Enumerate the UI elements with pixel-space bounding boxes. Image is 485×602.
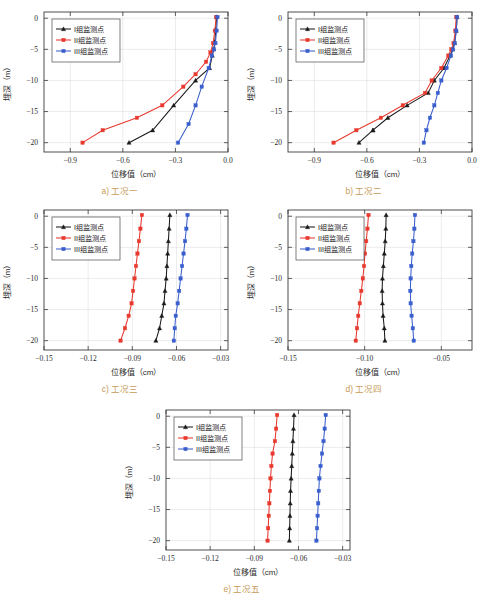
legend-label: III组监测点 — [318, 245, 352, 254]
data-point-marker — [166, 239, 170, 243]
data-point-marker — [135, 116, 138, 119]
x-tick-label: −0.6 — [116, 156, 130, 165]
legend-a: I组监测点II组监测点III组监测点 — [52, 19, 120, 62]
data-point-marker — [172, 339, 175, 342]
data-point-marker — [382, 326, 386, 330]
subplot-caption-a: a) 工况一 — [102, 186, 139, 196]
figure-root: −0.9−0.6−0.30.00−5−10−15−20位移值（cm）埋深（m）I… — [0, 0, 485, 602]
y-tick-label: −10 — [26, 274, 38, 283]
legend-label: III组监测点 — [74, 245, 108, 254]
legend-label: II组监测点 — [318, 36, 350, 45]
data-point-marker — [316, 514, 319, 517]
legend-label: II组监测点 — [74, 234, 106, 243]
data-point-marker — [411, 252, 414, 255]
data-point-marker — [425, 129, 428, 132]
subplot-caption-d: d) 工况四 — [346, 384, 383, 394]
data-point-marker — [381, 264, 385, 268]
data-point-marker — [422, 141, 425, 144]
data-point-marker — [140, 213, 143, 216]
data-point-marker — [383, 239, 387, 243]
data-point-marker — [174, 314, 177, 317]
legend-label: I组监测点 — [196, 423, 226, 432]
legend-swatch-marker — [306, 236, 309, 239]
data-point-marker — [411, 327, 414, 330]
legend-label: I组监测点 — [318, 25, 348, 34]
data-point-marker — [179, 277, 182, 280]
legend-c: I组监测点II组监测点III组监测点 — [52, 217, 120, 260]
data-point-marker — [366, 227, 369, 230]
y-tick-label: −15 — [270, 305, 282, 314]
chart-b: −0.9−0.6−0.30.00−5−10−15−20位移值（cm）埋深（m）I… — [244, 2, 484, 198]
data-point-marker — [273, 439, 276, 442]
chart-e: −0.15−0.12−0.09−0.06−0.030−5−10−15−20位移值… — [122, 400, 362, 596]
series-group-c — [119, 213, 189, 343]
legend-swatch-marker — [184, 447, 187, 450]
data-point-marker — [332, 141, 335, 144]
y-tick-label: 0 — [34, 212, 38, 221]
data-point-marker — [163, 289, 167, 293]
data-point-marker — [177, 289, 180, 292]
data-point-marker — [433, 104, 436, 107]
x-tick-label: −0.9 — [63, 156, 77, 165]
y-tick-label: −5 — [274, 45, 282, 54]
data-point-marker — [440, 66, 443, 69]
data-point-marker — [409, 289, 412, 292]
series-group-e — [266, 413, 328, 543]
x-tick-label: −0.06 — [168, 354, 186, 363]
subplot-d: −0.15−0.10−0.050−5−10−15−20位移值（cm）埋深（m）I… — [244, 200, 484, 396]
data-point-marker — [380, 289, 384, 293]
x-tick-label: −0.09 — [124, 354, 142, 363]
data-point-marker — [204, 60, 207, 63]
data-point-marker — [317, 502, 320, 505]
data-point-marker — [182, 252, 185, 255]
data-point-marker — [161, 104, 164, 107]
data-point-marker — [386, 116, 390, 120]
data-point-marker — [194, 73, 197, 76]
x-tick-label: −0.6 — [360, 156, 374, 165]
data-point-marker — [380, 301, 384, 305]
data-point-marker — [365, 239, 368, 242]
y-tick-label: 0 — [156, 412, 160, 421]
data-point-marker — [176, 302, 179, 305]
data-point-marker — [288, 514, 292, 518]
legend-swatch-marker — [62, 247, 65, 250]
data-point-marker — [360, 289, 363, 292]
data-point-marker — [412, 339, 415, 342]
data-point-marker — [413, 227, 416, 230]
y-tick-label: −15 — [26, 107, 38, 116]
data-point-marker — [266, 539, 269, 542]
data-point-marker — [187, 122, 190, 125]
y-tick-label: −15 — [26, 305, 38, 314]
x-tick-label: −0.9 — [307, 156, 321, 165]
legend-label: II组监测点 — [74, 36, 106, 45]
data-point-marker — [451, 48, 454, 51]
data-point-marker — [134, 264, 137, 267]
data-point-marker — [317, 489, 320, 492]
data-point-marker — [185, 227, 188, 230]
data-point-marker — [176, 141, 179, 144]
x-tick-label: 0.0 — [223, 156, 233, 165]
data-point-marker — [157, 326, 161, 330]
y-tick-label: −20 — [26, 336, 38, 345]
data-point-marker — [379, 116, 382, 119]
legend-label: III组监测点 — [318, 47, 352, 56]
data-point-marker — [200, 85, 203, 88]
data-point-marker — [413, 213, 416, 216]
data-point-marker — [354, 339, 357, 342]
y-axis-title: 埋深（m） — [2, 261, 12, 300]
data-point-marker — [320, 452, 323, 455]
y-tick-label: −10 — [148, 474, 160, 483]
data-point-marker — [355, 327, 358, 330]
y-tick-label: 0 — [34, 14, 38, 23]
data-point-marker — [410, 264, 413, 267]
subplot-caption-c: c) 工况三 — [102, 384, 138, 394]
series-line-c-1 — [121, 215, 142, 341]
data-point-marker — [274, 427, 277, 430]
legend-label: II组监测点 — [318, 234, 350, 243]
data-point-marker — [119, 339, 122, 342]
data-point-marker — [455, 29, 458, 32]
data-point-marker — [367, 213, 370, 216]
data-point-marker — [186, 213, 189, 216]
x-tick-label: −0.3 — [169, 156, 183, 165]
data-point-marker — [290, 451, 294, 455]
